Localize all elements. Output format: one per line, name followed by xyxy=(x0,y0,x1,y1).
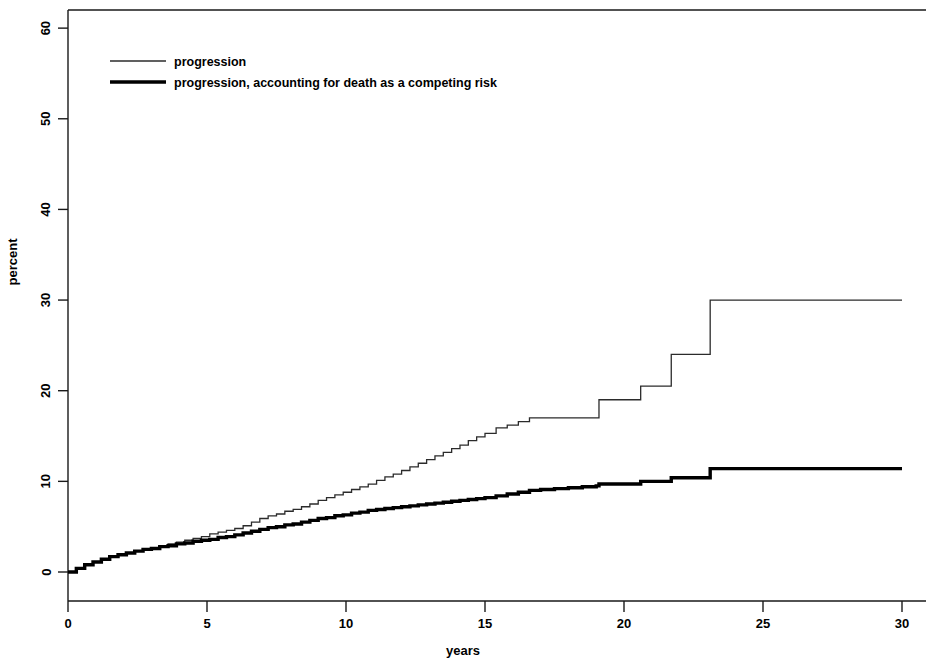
x-axis-title: years xyxy=(0,643,926,658)
y-tick-label-40: 40 xyxy=(39,202,54,216)
legend-label-2: progression, accounting for death as a c… xyxy=(174,76,497,90)
legend: progressionprogression, accounting for d… xyxy=(110,55,497,90)
cumulative-incidence-figure: 0102030405060 051015202530 progressionpr… xyxy=(0,0,926,661)
y-tick-label-30: 30 xyxy=(39,293,54,307)
series-progression xyxy=(68,300,902,572)
x-axis-ticks xyxy=(68,601,902,612)
x-tick-label-25: 25 xyxy=(756,616,770,631)
x-tick-label-5: 5 xyxy=(203,616,210,631)
legend-label-1: progression xyxy=(174,55,246,69)
series-progression-competing-risk xyxy=(68,469,902,572)
x-tick-label-10: 10 xyxy=(339,616,353,631)
y-axis-ticks xyxy=(58,28,68,572)
y-tick-label-10: 10 xyxy=(39,474,54,488)
y-tick-label-0: 0 xyxy=(39,568,54,575)
x-tick-label-20: 20 xyxy=(617,616,631,631)
y-tick-label-60: 60 xyxy=(39,21,54,35)
series-group xyxy=(68,300,902,572)
x-tick-label-30: 30 xyxy=(895,616,909,631)
axes-group xyxy=(68,10,926,601)
plot-frame xyxy=(68,10,926,601)
y-tick-label-50: 50 xyxy=(39,112,54,126)
x-axis-tick-labels: 051015202530 xyxy=(64,616,909,631)
y-axis-title: percent xyxy=(5,266,20,286)
x-tick-label-0: 0 xyxy=(64,616,71,631)
plot-canvas: 0102030405060 051015202530 progressionpr… xyxy=(0,0,926,661)
x-tick-label-15: 15 xyxy=(478,616,492,631)
y-axis-tick-labels: 0102030405060 xyxy=(39,21,54,576)
y-tick-label-20: 20 xyxy=(39,383,54,397)
